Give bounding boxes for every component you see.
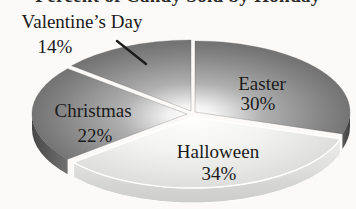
figure: Percent of Candy Sold by Holiday (0, 0, 356, 209)
pie-chart: Valentine’s Day 14% Christmas 22% Easter… (0, 0, 356, 209)
valentines-pct-label: 14% (38, 36, 73, 57)
halloween-label: Halloween (177, 141, 260, 162)
valentines-label: Valentine’s Day (22, 11, 143, 32)
halloween-pct-label: 34% (202, 163, 237, 184)
easter-pct-label: 30% (241, 93, 276, 114)
christmas-pct-label: 22% (78, 125, 113, 146)
christmas-label: Christmas (54, 100, 131, 121)
easter-label: Easter (238, 73, 286, 94)
